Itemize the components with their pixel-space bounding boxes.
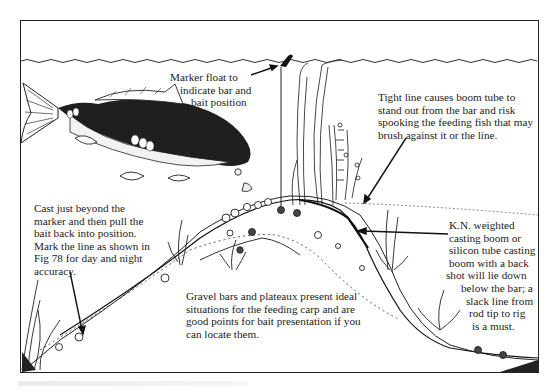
annotation-line: Gravel bars and plateaux present ideal <box>186 290 361 303</box>
annotation-line: can locate them. <box>186 328 361 341</box>
annotation-cast: Cast just beyond the marker and then pul… <box>34 202 150 278</box>
annotation-line: slack line from <box>446 295 535 308</box>
annotation-tight-line: Tight line causes boom tube to stand out… <box>378 91 533 141</box>
annotation-gravel-bars: Gravel bars and plateaux present ideal s… <box>186 290 361 340</box>
faded-caption <box>18 381 248 386</box>
annotation-line: is a must. <box>446 320 535 333</box>
annotation-line: spooking the feeding fish that may <box>378 116 533 129</box>
annotation-line: K.N. weighted <box>446 219 535 232</box>
arrow-marker <box>251 65 277 75</box>
annotation-line: shot will lie down <box>446 269 535 282</box>
annotation-line: indicate bar and <box>170 84 251 97</box>
annotation-line: accuracy. <box>34 265 150 278</box>
annotation-line: below the bar; a <box>446 282 535 295</box>
annotation-line: brush against it or the line. <box>378 129 533 142</box>
annotation-line: Marker float to <box>170 71 251 84</box>
annotation-line: casting boom or <box>446 232 535 245</box>
arrow-tight-line <box>364 138 406 203</box>
marker-float <box>280 55 293 209</box>
annotation-line: Mark the line as shown in <box>34 240 150 253</box>
annotation-line: silicon tube casting <box>446 244 535 257</box>
weed <box>292 60 362 205</box>
annotation-line: bait back into position. <box>34 227 150 240</box>
annotation-line: Tight line causes boom tube to <box>378 91 533 104</box>
annotation-line: boom with a back <box>446 257 535 270</box>
annotation-line: Cast just beyond the <box>34 202 150 215</box>
annotation-line: Fig 78 for day and night <box>34 252 150 265</box>
annotation-line: marker and then pull the <box>34 215 150 228</box>
annotation-marker-float: Marker float to indicate bar and bait po… <box>170 71 251 109</box>
annotation-line: bait position <box>170 96 251 109</box>
annotation-line: stand out from the bar and risk <box>378 104 533 117</box>
annotation-line: situations for the feeding carp and are <box>186 303 361 316</box>
water-surface <box>21 60 537 63</box>
annotation-line: rod tip to rig <box>446 307 535 320</box>
annotation-line: good points for bait presentation if you <box>186 315 361 328</box>
annotation-boom: K.N. weighted casting boom or silicon tu… <box>446 219 535 332</box>
arrow-boom <box>358 228 448 234</box>
